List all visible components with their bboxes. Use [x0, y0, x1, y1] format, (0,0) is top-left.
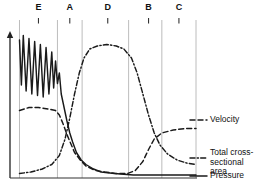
segment-label-b: B: [145, 3, 152, 12]
segment-label-a: A: [67, 3, 74, 12]
legend-label-velocity: Velocity: [210, 115, 239, 125]
legend-label-pressure: Pressure: [210, 171, 244, 181]
curve-velocity: [19, 108, 196, 174]
segment-label-e: E: [35, 3, 41, 12]
segment-label-d: D: [104, 3, 111, 12]
physiology-chart-figure: EADBC VelocityTotal cross- sectional are…: [0, 0, 257, 191]
curve-pressure: [19, 36, 196, 176]
y-axis-arrow-icon: [7, 31, 13, 38]
segment-label-c: C: [176, 3, 183, 12]
